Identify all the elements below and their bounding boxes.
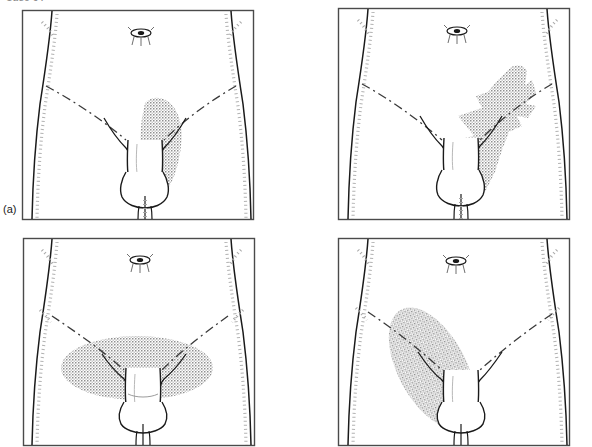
panel-d: (d) bbox=[296, 224, 592, 447]
figure-container: Case 64 bbox=[0, 0, 592, 447]
panel-label-a: (a) bbox=[3, 203, 16, 215]
panel-b: (b) bbox=[296, 0, 592, 223]
panel-a: (a) bbox=[0, 0, 296, 223]
panel-c: (c) bbox=[0, 224, 296, 447]
